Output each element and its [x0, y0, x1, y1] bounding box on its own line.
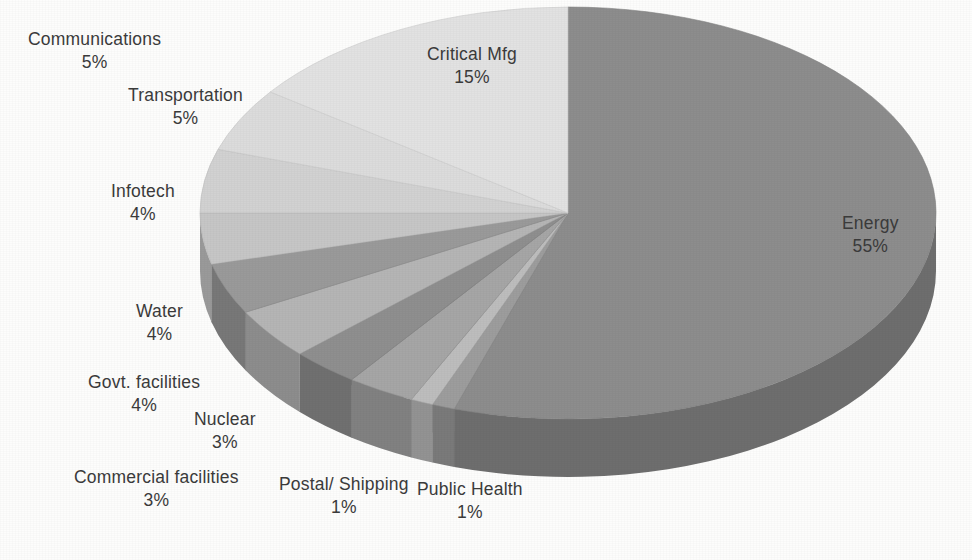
pie-label-water: Water 4% [136, 300, 183, 346]
pie-label-govt-facilities-name: Govt. facilities [88, 371, 200, 394]
pie-label-commercial-facilities-value: 3% [74, 489, 239, 512]
pie-label-postal-shipping: Postal/ Shipping 1% [279, 473, 409, 519]
pie-label-water-name: Water [136, 300, 183, 323]
pie-label-govt-facilities-value: 4% [88, 394, 200, 417]
pie-label-govt-facilities: Govt. facilities 4% [88, 371, 200, 417]
pie-slice-side-postal-shipping [411, 399, 432, 462]
pie-label-transportation-name: Transportation [128, 84, 243, 107]
pie-label-critical-mfg-value: 15% [427, 66, 517, 89]
pie-label-infotech: Infotech 4% [111, 180, 175, 226]
pie-slice-side-public-health [433, 405, 455, 467]
pie-label-water-value: 4% [136, 323, 183, 346]
pie-label-infotech-value: 4% [111, 203, 175, 226]
pie-label-critical-mfg-name: Critical Mfg [427, 43, 517, 66]
pie-label-transportation-value: 5% [128, 107, 243, 130]
pie-chart-figure: Communications 5% Transportation 5% Info… [0, 0, 972, 560]
pie-label-communications-value: 5% [28, 51, 161, 74]
pie-label-postal-shipping-value: 1% [279, 496, 409, 519]
pie-label-nuclear-value: 3% [194, 431, 256, 454]
pie-label-transportation: Transportation 5% [128, 84, 243, 130]
pie-top-faces [200, 7, 936, 419]
pie-label-nuclear-name: Nuclear [194, 408, 256, 431]
pie-label-energy: Energy 55% [842, 212, 899, 258]
pie-label-communications: Communications 5% [28, 28, 161, 74]
pie-label-commercial-facilities: Commercial facilities 3% [74, 466, 239, 512]
pie-label-energy-name: Energy [842, 212, 899, 235]
pie-label-critical-mfg: Critical Mfg 15% [427, 43, 517, 89]
pie-label-public-health-value: 1% [417, 501, 523, 524]
pie-label-energy-value: 55% [842, 235, 899, 258]
pie-label-nuclear: Nuclear 3% [194, 408, 256, 454]
pie-label-commercial-facilities-name: Commercial facilities [74, 466, 239, 489]
pie-label-public-health: Public Health 1% [417, 478, 523, 524]
pie-label-communications-name: Communications [28, 28, 161, 51]
pie-label-public-health-name: Public Health [417, 478, 523, 501]
pie-label-postal-shipping-name: Postal/ Shipping [279, 473, 409, 496]
pie-label-infotech-name: Infotech [111, 180, 175, 203]
